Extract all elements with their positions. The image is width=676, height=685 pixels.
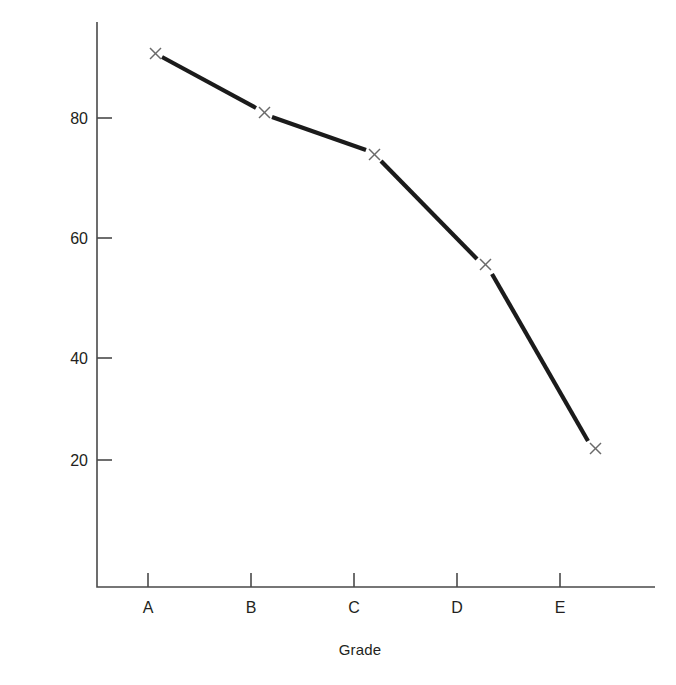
x-tick-label-a: A bbox=[143, 599, 154, 616]
data-point-d bbox=[480, 259, 491, 270]
axis-lines bbox=[97, 22, 655, 587]
line-segment-a-b bbox=[162, 57, 256, 108]
x-tick-label-b: B bbox=[246, 599, 257, 616]
y-tick-label-60: 60 bbox=[70, 230, 88, 247]
chart-canvas: 80 60 40 20 A B C D E Percentage accepti… bbox=[0, 0, 676, 685]
x-tick-label-c: C bbox=[348, 599, 360, 616]
line-chart: 80 60 40 20 A B C D E Percentage accepti… bbox=[0, 0, 676, 685]
y-tick-label-80: 80 bbox=[70, 110, 88, 127]
line-segment-d-e bbox=[492, 274, 588, 441]
y-tick-label-40: 40 bbox=[70, 350, 88, 367]
axis-group bbox=[97, 22, 655, 587]
line-segment-b-c bbox=[272, 117, 366, 150]
x-tick-labels: A B C D E bbox=[143, 599, 566, 616]
data-point-e bbox=[590, 443, 601, 454]
data-point-markers bbox=[150, 48, 601, 454]
data-point-a bbox=[150, 48, 161, 59]
data-point-c bbox=[369, 149, 380, 160]
x-tick-label-e: E bbox=[555, 599, 566, 616]
x-axis-title: Grade bbox=[339, 641, 382, 658]
x-tick-label-d: D bbox=[451, 599, 463, 616]
data-series-line bbox=[162, 57, 588, 441]
y-tick-label-20: 20 bbox=[70, 452, 88, 469]
line-segment-c-d bbox=[381, 161, 477, 259]
data-point-b bbox=[259, 107, 270, 118]
y-tick-labels: 80 60 40 20 bbox=[70, 110, 88, 469]
